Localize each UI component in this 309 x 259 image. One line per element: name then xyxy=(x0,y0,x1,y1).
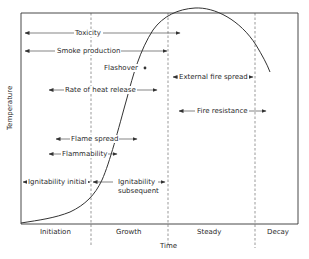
x-axis-label: Time xyxy=(160,242,177,250)
phase-label-growth: Growth xyxy=(116,228,141,236)
phase-label-initiation: Initiation xyxy=(40,228,71,236)
phase-label-decay: Decay xyxy=(267,228,289,236)
span-label-ignitability-subsequent-line1: Ignitability xyxy=(117,178,156,186)
span-label-smoke-production: Smoke production xyxy=(56,47,121,55)
span-label-ignitability-subsequent-line2: subsequent xyxy=(117,187,160,195)
y-axis-label: Temperature xyxy=(6,90,14,130)
span-label-toxicity: Toxicity xyxy=(74,29,102,37)
span-label-flame-spread: Flame spread xyxy=(70,135,119,143)
span-label-flammability: Flammability xyxy=(61,150,108,158)
span-label-external-fire-spread: External fire spread xyxy=(178,73,249,81)
fire-development-diagram xyxy=(0,0,309,259)
phase-label-steady: Steady xyxy=(197,228,221,236)
span-label-fire-resistance: Fire resistance xyxy=(196,107,249,115)
span-label-rate-of-heat-release: Rate of heat release xyxy=(64,86,137,94)
span-label-ignitability-initial: Ignitability initial xyxy=(27,178,88,186)
flashover-label: Flashover xyxy=(103,64,139,72)
flashover-point xyxy=(144,67,147,70)
